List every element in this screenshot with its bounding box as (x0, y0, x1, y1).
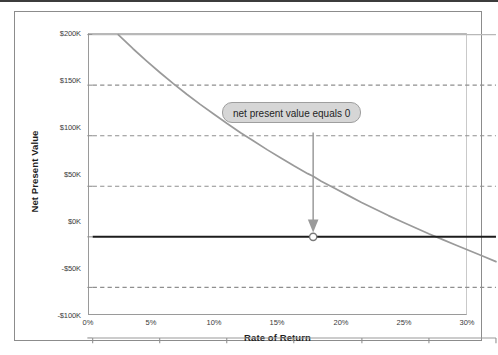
irr-point-marker (310, 233, 317, 240)
npv-curve (118, 35, 496, 262)
callout-arrow (308, 132, 319, 232)
chart-drawing-layer (15, 12, 498, 355)
chart-frame: $200K $150K $100K $50K $0K -$50K -$100K … (14, 11, 482, 341)
npv-zero-callout: net present value equals 0 (222, 102, 361, 123)
x-axis-ticks (93, 338, 496, 343)
chart-page: $200K $150K $100K $50K $0K -$50K -$100K … (0, 0, 498, 355)
gridlines (93, 35, 496, 338)
top-rule-divider (0, 0, 498, 2)
y-axis-ticks (87, 35, 92, 338)
